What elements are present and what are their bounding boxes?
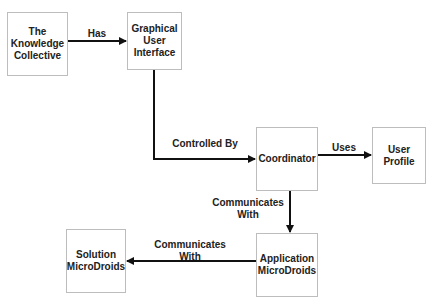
node-solution-microdroids: Solution MicroDroids	[66, 229, 126, 293]
node-coordinator: Coordinator	[256, 127, 318, 191]
edge-label-has: Has	[82, 28, 112, 40]
node-user-profile: User Profile	[372, 127, 426, 184]
node-graphical-user-interface: Graphical User Interface	[127, 12, 182, 70]
edge-label-uses: Uses	[326, 142, 362, 154]
edge-label-communicates-with-1: Communicates With	[208, 197, 288, 221]
edge-label-controlled-by: Controlled By	[165, 138, 245, 150]
node-application-microdroids: Application MicroDroids	[256, 233, 318, 297]
edge-label-communicates-with-2: Communicates With	[150, 239, 230, 263]
diagram-canvas: The Knowledge Collective Graphical User …	[0, 0, 440, 308]
node-knowledge-collective: The Knowledge Collective	[7, 12, 68, 76]
